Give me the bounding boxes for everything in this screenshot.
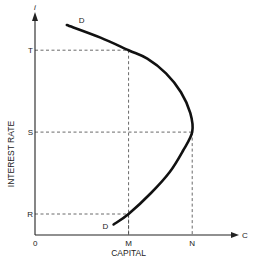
y-axis-symbol: i: [34, 3, 36, 12]
x-tick-label: M: [125, 239, 132, 248]
curve-label-bottom: D: [103, 222, 109, 231]
x-tick-label: N: [189, 239, 195, 248]
origin-label: 0: [33, 239, 38, 248]
series-line-d: [67, 25, 193, 225]
backward-bending-capital-demand-chart: i C 0 R S T M N D D CAPITAL INTEREST RAT…: [0, 0, 259, 266]
x-axis-title: CAPITAL: [111, 248, 146, 258]
axes: [32, 12, 239, 238]
y-tick-label: S: [28, 128, 33, 137]
y-axis-arrowhead-icon: [32, 12, 38, 21]
x-axis-arrowhead-icon: [231, 232, 239, 238]
y-axis-title: INTEREST RATE: [6, 121, 16, 188]
x-axis-symbol: C: [242, 231, 248, 240]
curve-label-top: D: [79, 16, 85, 25]
y-tick-label: T: [28, 46, 33, 55]
y-tick-label: R: [27, 210, 33, 219]
